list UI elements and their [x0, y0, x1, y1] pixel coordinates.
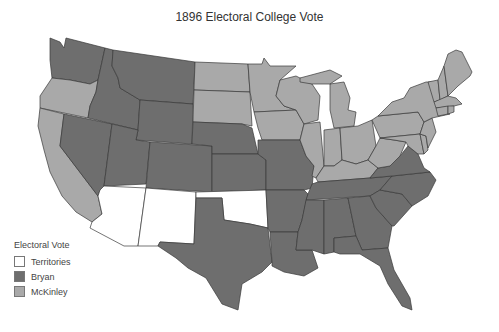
legend-item-mckinley: McKinley [14, 284, 71, 299]
state-maine [444, 50, 472, 96]
state-kansas [212, 154, 266, 192]
state-washington [50, 38, 105, 84]
state-iowa [254, 110, 304, 140]
legend-title: Electoral Vote [14, 240, 71, 250]
territories-swatch [14, 256, 25, 267]
legend-label: McKinley [31, 287, 68, 297]
us-map [0, 0, 499, 332]
mckinley-swatch [14, 286, 25, 297]
state-rhode-island [448, 106, 454, 114]
legend-label: Territories [31, 257, 71, 267]
state-indiana [324, 128, 342, 166]
legend-label: Bryan [31, 272, 55, 282]
state-connecticut [436, 106, 448, 116]
state-wyoming [136, 100, 193, 144]
state-colorado [146, 142, 212, 192]
bryan-swatch [14, 271, 25, 282]
state-new-mexico [138, 188, 196, 246]
legend: Electoral Vote Territories Bryan McKinle… [14, 240, 71, 299]
state-north-dakota [194, 62, 250, 92]
state-south-dakota [193, 90, 252, 126]
legend-item-territories: Territories [14, 254, 71, 269]
legend-item-bryan: Bryan [14, 269, 71, 284]
